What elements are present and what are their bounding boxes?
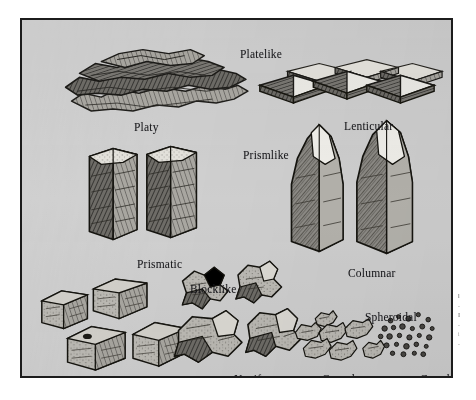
margin-caption-line-5: i: [458, 330, 476, 340]
specimen-label-lenticular: Lenticular: [344, 121, 393, 133]
specimen-label-columnar: Columnar: [348, 268, 396, 280]
nuciform-specimen: [175, 261, 302, 362]
margin-caption-line-1: l: [458, 292, 476, 302]
blocky-specimen: [42, 279, 187, 370]
specimen-label-granular: Granular: [322, 374, 364, 378]
group-label-spheroidal: Spheroidal: [365, 312, 417, 324]
specimen-label-platy: Platy: [134, 122, 159, 134]
platy-specimen: [66, 50, 248, 111]
margin-caption-line-6: -: [458, 340, 476, 350]
group-label-platelike: Platelike: [240, 49, 282, 61]
margin-caption-line-2: -: [458, 302, 476, 312]
group-label-blocklike: Blocklike: [190, 284, 237, 296]
lenticular-specimen: [260, 60, 442, 104]
margin-caption-line-3: I: [458, 311, 476, 321]
prismatic-specimen: [89, 147, 196, 240]
illustration-plate: Platelike Platy Lenticular Prismlike Pri…: [20, 18, 453, 378]
margin-caption-line-4: -: [458, 321, 476, 331]
specimen-label-crumb: Crumb: [420, 374, 453, 378]
columnar-specimen: [291, 121, 412, 254]
group-label-prismlike: Prismlike: [243, 150, 289, 162]
figure-root: Platelike Platy Lenticular Prismlike Pri…: [0, 0, 476, 400]
specimen-label-nuciform: Nuciform: [234, 374, 280, 378]
specimen-label-prismatic: Prismatic: [137, 259, 182, 271]
margin-caption-fragment: l - I - i -: [458, 292, 476, 378]
